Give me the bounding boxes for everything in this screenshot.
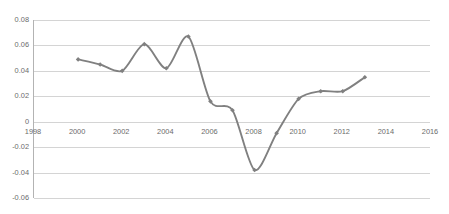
series-line bbox=[78, 36, 365, 170]
data-point-marker bbox=[98, 62, 103, 67]
y-axis-tick-label: 0.06 bbox=[0, 41, 29, 48]
series-line-path bbox=[34, 20, 431, 198]
data-point-marker bbox=[318, 89, 323, 94]
x-axis-tick-label: 2000 bbox=[57, 128, 97, 135]
x-axis-tick-label: 1998 bbox=[13, 128, 53, 135]
x-axis-tick-label: 2004 bbox=[145, 128, 185, 135]
y-axis-tick-label: 0 bbox=[0, 118, 29, 125]
y-axis-tick-label: -0.04 bbox=[0, 169, 29, 176]
y-axis-tick-label: -0.02 bbox=[0, 143, 29, 150]
x-axis-tick-label: 2008 bbox=[234, 128, 274, 135]
plot-area bbox=[33, 20, 430, 198]
x-axis-tick-label: 2014 bbox=[366, 128, 406, 135]
x-axis-tick-label: 2006 bbox=[189, 128, 229, 135]
line-chart: 0.080.060.040.020-0.02-0.04-0.06 1998200… bbox=[0, 0, 449, 214]
y-axis-tick-label: 0.02 bbox=[0, 92, 29, 99]
y-axis-tick-label: 0.04 bbox=[0, 67, 29, 74]
x-axis-tick-label: 2016 bbox=[410, 128, 449, 135]
x-axis-tick-label: 2012 bbox=[322, 128, 362, 135]
y-axis-tick-label: -0.06 bbox=[0, 194, 29, 201]
x-axis-tick-label: 2010 bbox=[278, 128, 318, 135]
data-point-marker bbox=[76, 57, 81, 62]
x-axis-tick-label: 2002 bbox=[101, 128, 141, 135]
gridline bbox=[34, 198, 430, 199]
y-axis-tick-label: 0.08 bbox=[0, 16, 29, 23]
